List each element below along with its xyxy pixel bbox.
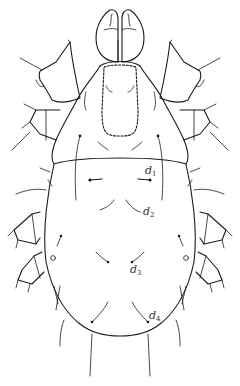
mite-illustration: d1 d2 d3 d4 [0, 0, 240, 386]
label-d3: d3 [130, 264, 142, 277]
label-d3-base: d [130, 263, 137, 276]
lateral-setae [16, 168, 224, 194]
chelicerae [96, 10, 144, 66]
mite-line-drawing [0, 0, 240, 386]
hysterosoma [45, 140, 196, 336]
label-d4: d4 [149, 310, 161, 323]
leg-pair-2 [12, 104, 228, 150]
label-d1-sub: 1 [152, 170, 156, 178]
posterior-setae [54, 286, 186, 376]
label-d2: d2 [143, 206, 155, 219]
label-d2-sub: 2 [150, 211, 154, 219]
leg-pair-3 [8, 212, 232, 248]
leg-pair-4 [16, 252, 224, 292]
dorsal-setae [51, 135, 189, 324]
leg-pair-1 [20, 40, 220, 102]
label-d4-base: d [149, 309, 156, 322]
sejugal-line [54, 158, 186, 164]
label-d1: d1 [145, 165, 157, 178]
label-d2-base: d [143, 205, 150, 218]
label-d1-base: d [145, 164, 152, 177]
label-d3-sub: 3 [137, 269, 141, 277]
label-d4-sub: 4 [156, 315, 160, 323]
